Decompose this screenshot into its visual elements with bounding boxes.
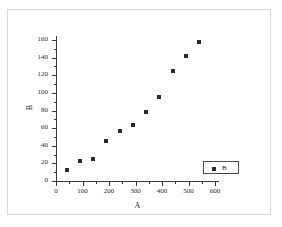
x-axis-title: A bbox=[56, 201, 219, 210]
data-point bbox=[184, 54, 188, 58]
data-point bbox=[91, 157, 95, 161]
x-tick-minor bbox=[202, 182, 203, 184]
chart-screenshot: B A B 0204060801001201401600100200300400… bbox=[0, 0, 282, 227]
data-point bbox=[65, 168, 69, 172]
y-tick-label: 80 bbox=[24, 107, 48, 114]
x-tick-label: 200 bbox=[97, 188, 121, 195]
x-tick-label: 600 bbox=[203, 188, 227, 195]
x-tick-label: 500 bbox=[177, 188, 201, 195]
y-tick-label: 100 bbox=[24, 89, 48, 96]
x-tick-label: 400 bbox=[150, 188, 174, 195]
legend[interactable]: B bbox=[203, 161, 239, 174]
x-axis-line bbox=[56, 181, 219, 182]
x-tick bbox=[162, 182, 163, 186]
y-tick-label: 20 bbox=[24, 159, 48, 166]
x-tick bbox=[136, 182, 137, 186]
data-point bbox=[157, 95, 161, 99]
x-tick-label: 100 bbox=[71, 188, 95, 195]
data-point bbox=[78, 159, 82, 163]
x-tick-minor bbox=[175, 182, 176, 184]
data-point bbox=[197, 40, 201, 44]
legend-label: B bbox=[222, 164, 227, 173]
x-tick-minor bbox=[69, 182, 70, 184]
x-tick-minor bbox=[96, 182, 97, 184]
x-tick-label: 300 bbox=[124, 188, 148, 195]
data-point bbox=[118, 129, 122, 133]
x-tick bbox=[83, 182, 84, 186]
x-tick bbox=[189, 182, 190, 186]
data-point bbox=[104, 139, 108, 143]
data-point bbox=[131, 123, 135, 127]
y-tick-label: 140 bbox=[24, 54, 48, 61]
y-tick-label: 40 bbox=[24, 142, 48, 149]
x-tick-label: 0 bbox=[44, 188, 68, 195]
x-tick bbox=[215, 182, 216, 186]
y-tick-label: 120 bbox=[24, 71, 48, 78]
x-tick-minor bbox=[122, 182, 123, 184]
x-tick bbox=[109, 182, 110, 186]
y-tick-label: 160 bbox=[24, 36, 48, 43]
y-tick-label: 60 bbox=[24, 124, 48, 131]
legend-marker-icon bbox=[212, 167, 216, 171]
data-point bbox=[171, 69, 175, 73]
x-tick bbox=[56, 182, 57, 186]
data-point bbox=[144, 110, 148, 114]
x-tick-minor bbox=[149, 182, 150, 184]
y-tick-label: 0 bbox=[24, 177, 48, 184]
